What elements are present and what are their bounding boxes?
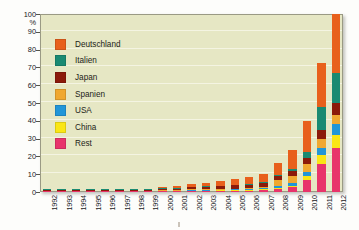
legend-item-usa[interactable]: USA <box>55 102 121 119</box>
x-axis-tick-label: 1999 <box>151 195 160 211</box>
bar-segment <box>332 135 340 147</box>
bar-segment <box>303 121 311 152</box>
stacked-bar[interactable] <box>216 181 224 192</box>
legend-item-china[interactable]: China <box>55 119 121 136</box>
bar-segment <box>288 150 296 169</box>
stacked-bar[interactable] <box>231 179 239 192</box>
legend-item-japan[interactable]: Japan <box>55 69 121 86</box>
legend-swatch-icon <box>55 105 66 116</box>
legend-item-label: Deutschland <box>75 40 121 49</box>
bar-segment <box>317 148 325 155</box>
x-axis: 1992199319941995199619971998199920002001… <box>40 192 343 230</box>
chart-legend: DeutschlandItalienJapanSpanienUSAChinaRe… <box>55 36 121 152</box>
legend-swatch-icon <box>55 122 66 133</box>
y-axis-unit-label: % <box>29 19 36 26</box>
stacked-bar[interactable] <box>202 183 210 192</box>
bar-segment <box>317 107 325 130</box>
bar-segment <box>332 148 340 193</box>
stacked-bar[interactable] <box>288 150 296 192</box>
legend-swatch-icon <box>55 55 66 66</box>
x-axis-tick-label: 2006 <box>252 195 261 211</box>
bar-segment <box>303 180 311 192</box>
x-axis-tick-label: 1992 <box>50 195 59 211</box>
y-axis-tick-label: 20 <box>28 153 36 160</box>
x-axis-tick-label: 2007 <box>267 195 276 211</box>
legend-item-label: Japan <box>75 73 97 82</box>
bar-segment <box>317 155 325 164</box>
legend-item-label: USA <box>75 106 92 115</box>
y-axis-tick-label: 70 <box>28 64 36 71</box>
y-axis-tick-label: 50 <box>28 100 36 107</box>
y-axis-tick-label: 40 <box>28 117 36 124</box>
stacked-bar[interactable] <box>303 121 311 192</box>
y-axis-tick-label: 60 <box>28 82 36 89</box>
stacked-bar[interactable] <box>245 177 253 192</box>
bar-segment <box>332 73 340 103</box>
x-axis-tick-label: 2008 <box>281 195 290 211</box>
bar-segment <box>332 124 340 135</box>
legend-item-rest[interactable]: Rest <box>55 136 121 153</box>
x-axis-tick-label: 2004 <box>224 195 233 211</box>
legend-item-label: Rest <box>75 139 92 148</box>
legend-item-label: Italien <box>75 56 97 65</box>
x-axis-tick-label: 1994 <box>79 195 88 211</box>
bar-segment <box>317 164 325 192</box>
x-axis-tick-label: 2010 <box>310 195 319 211</box>
y-axis-tick-label: 80 <box>28 46 36 53</box>
x-axis-tick-label: 2012 <box>339 195 348 211</box>
stacked-bar[interactable] <box>259 174 267 192</box>
bar-segment <box>332 103 340 115</box>
x-axis-tick-label: 1995 <box>94 195 103 211</box>
bar-segment <box>332 115 340 124</box>
y-axis-tick-label: 90 <box>28 28 36 35</box>
bar-segment <box>245 177 253 184</box>
bar-segment <box>303 164 311 171</box>
bar-segment <box>332 14 340 73</box>
y-axis-tick-label: 100 <box>24 11 36 18</box>
x-axis-tick-label: 1996 <box>108 195 117 211</box>
chart-figure: % 0102030405060708090100 DeutschlandItal… <box>0 0 359 230</box>
x-axis-tick-label: 2005 <box>238 195 247 211</box>
bar-segment <box>317 63 325 107</box>
x-axis-tick-label: 2011 <box>325 195 334 210</box>
legend-item-deutschland[interactable]: Deutschland <box>55 36 121 53</box>
bar-segment <box>317 139 325 148</box>
x-axis-tick-label: 2003 <box>209 195 218 211</box>
stacked-bar[interactable] <box>317 63 325 192</box>
stacked-bar[interactable] <box>274 163 282 192</box>
x-axis-tick-label: 1993 <box>65 195 74 211</box>
y-axis: % 0102030405060708090100 <box>0 0 40 206</box>
legend-swatch-icon <box>55 138 66 149</box>
legend-item-spanien[interactable]: Spanien <box>55 86 121 103</box>
legend-swatch-icon <box>55 72 66 83</box>
bar-segment <box>274 163 282 174</box>
y-axis-tick-label: 10 <box>28 171 36 178</box>
page-artifact-mark <box>178 222 180 227</box>
legend-swatch-icon <box>55 89 66 100</box>
stacked-bar[interactable] <box>332 14 340 192</box>
x-axis-tick-label: 1998 <box>137 195 146 211</box>
legend-item-italien[interactable]: Italien <box>55 53 121 70</box>
bar-segment <box>259 174 267 182</box>
legend-swatch-icon <box>55 39 66 50</box>
stacked-bar[interactable] <box>187 184 195 192</box>
legend-item-label: China <box>75 123 96 132</box>
x-axis-tick-label: 2000 <box>166 195 175 211</box>
bar-segment <box>317 130 325 139</box>
x-axis-tick-label: 2002 <box>195 195 204 211</box>
x-axis-tick-label: 2009 <box>296 195 305 211</box>
legend-item-label: Spanien <box>75 90 105 99</box>
y-axis-tick-label: 30 <box>28 135 36 142</box>
x-axis-tick-label: 2001 <box>180 195 189 211</box>
x-axis-tick-label: 1997 <box>123 195 132 211</box>
